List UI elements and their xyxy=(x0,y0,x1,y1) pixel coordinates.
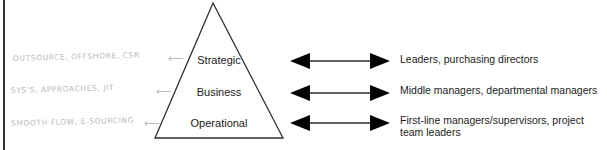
pyramid-tier-label-business: Business xyxy=(146,86,292,98)
role-label-strategic: Leaders, purchasing directors xyxy=(400,54,607,66)
double-arrow-icon-operational xyxy=(288,114,392,132)
pyramid-tier-label-operational: Operational xyxy=(146,117,292,129)
role-label-operational: First-line managers/supervisors, project… xyxy=(400,115,607,138)
handwritten-note-strategic: OUTSOURCE, OFFSHORE, CSR xyxy=(13,50,140,63)
diagram-canvas: OUTSOURCE, OFFSHORE, CSR SYS'S, APPROACH… xyxy=(0,0,607,150)
pyramid-tier-label-strategic: Strategic xyxy=(146,54,292,66)
handwritten-note-operational: SMOOTH FLOW, E-SOURCING xyxy=(11,116,134,128)
role-label-business: Middle managers, departmental managers xyxy=(400,85,607,97)
double-arrow-icon-strategic xyxy=(288,52,392,70)
double-arrow-icon-business xyxy=(288,84,392,102)
handwritten-note-business: SYS'S, APPROACHES, JIT xyxy=(11,83,114,95)
scanned-page-edge xyxy=(3,0,5,150)
